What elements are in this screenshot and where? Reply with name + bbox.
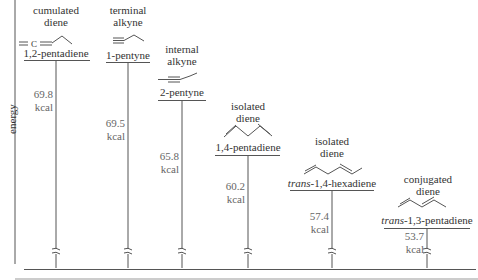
- energy-value: 57.4 kcal: [296, 210, 329, 236]
- energy-value: 69.5 kcal: [92, 117, 125, 143]
- energy-value: 53.7 kcal: [391, 230, 424, 256]
- allene-structure-icon: [40, 36, 72, 45]
- level-category: isolated diene: [216, 100, 280, 124]
- energy-value: 69.8 kcal: [20, 88, 53, 114]
- level-category: internal alkyne: [154, 43, 210, 67]
- compound-name: trans-1,3-pentadiene: [376, 214, 478, 226]
- energy-axis-label: energy: [6, 99, 18, 139]
- level-category: cumulated diene: [20, 4, 92, 28]
- double-bond-icon: [19, 42, 28, 45]
- energy-value: 60.2 kcal: [212, 180, 245, 206]
- level-category: conjugated diene: [392, 173, 464, 197]
- alkyne-structure-icon: [113, 35, 144, 43]
- internal-alkyne-structure-icon: [158, 73, 197, 82]
- energy-diagram: energy cumulated diene C 1,2-pentadiene …: [0, 0, 478, 280]
- compound-name: trans-1,4-hexadiene: [282, 177, 382, 189]
- compound-name: 1,4-pentadiene: [208, 141, 288, 153]
- compound-name: 1,2-pentadiene: [18, 47, 94, 59]
- axis-break-icons: [52, 248, 431, 268]
- compound-name: 2-pentyne: [154, 86, 210, 98]
- energy-value: 65.8 kcal: [146, 150, 179, 176]
- level-category: terminal alkyne: [100, 4, 156, 28]
- conjugated-diene-structure-icon: [398, 197, 446, 207]
- hexadiene-structure-icon: [304, 164, 362, 174]
- level-category: isolated diene: [300, 135, 364, 159]
- pentadiene-structure-icon: [224, 124, 272, 137]
- compound-name: 1-pentyne: [100, 49, 156, 61]
